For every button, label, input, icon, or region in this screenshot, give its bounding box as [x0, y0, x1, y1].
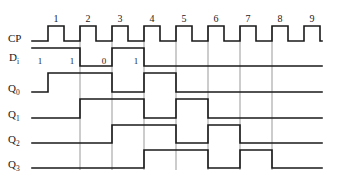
waveform-group: [32, 26, 322, 168]
timing-diagram-canvas: 1 2 3 4 5 6 7 8 9 CP D i Q 0 Q 1: [0, 0, 339, 177]
signal-label-q2: Q: [8, 133, 16, 145]
clock-number-6: 6: [214, 13, 219, 24]
waveform-q0: [32, 73, 322, 92]
waveform-q3: [32, 150, 322, 168]
signal-label-q0-subscript: 0: [16, 88, 20, 97]
clock-number-3: 3: [118, 13, 123, 24]
data-bit-label-3: 1: [134, 56, 139, 66]
clock-number-5: 5: [182, 13, 187, 24]
signal-label-di-subscript: i: [17, 57, 19, 66]
timing-diagram: 1 2 3 4 5 6 7 8 9 CP D i Q 0 Q 1: [0, 0, 339, 177]
clock-number-4: 4: [150, 13, 155, 24]
signal-label-group: CP D i Q 0 Q 1 Q 2 Q 3: [8, 32, 21, 173]
signal-label-q0: Q: [8, 82, 16, 94]
clock-number-8: 8: [278, 13, 283, 24]
clock-number-9: 9: [310, 13, 315, 24]
clock-number-2: 2: [86, 13, 91, 24]
reference-line-group: [80, 26, 272, 170]
data-bit-label-2: 0: [102, 56, 107, 66]
data-bit-label-0: 1: [38, 56, 43, 66]
signal-label-cp: CP: [8, 32, 21, 44]
signal-label-q3-subscript: 3: [16, 164, 20, 173]
data-bit-label-group: 1 1 0 1: [38, 56, 139, 66]
waveform-cp: [32, 26, 322, 41]
signal-label-q1: Q: [8, 108, 16, 120]
signal-label-q1-subscript: 1: [16, 114, 20, 123]
signal-label-di: D: [9, 51, 17, 63]
waveform-q1: [32, 99, 322, 118]
waveform-di: [32, 48, 322, 66]
data-bit-label-1: 1: [70, 56, 75, 66]
clock-number-1: 1: [54, 13, 59, 24]
waveform-q2: [32, 125, 322, 143]
signal-label-q2-subscript: 2: [16, 139, 20, 148]
clock-number-7: 7: [246, 13, 251, 24]
clock-number-group: 1 2 3 4 5 6 7 8 9: [54, 13, 315, 24]
signal-label-q3: Q: [8, 158, 16, 170]
